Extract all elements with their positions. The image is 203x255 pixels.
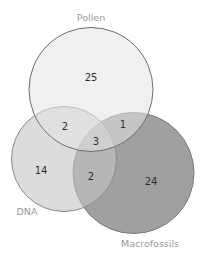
dna-set-label: DNA	[17, 206, 38, 217]
dna-only-count: 14	[35, 165, 48, 176]
macrofossils-set-label: Macrofossils	[121, 238, 179, 249]
pollen-set-label: Pollen	[77, 12, 105, 23]
pollen-dna-count: 2	[62, 121, 68, 132]
macrofossils-only-count: 24	[145, 176, 158, 187]
pollen-only-count: 25	[85, 72, 98, 83]
all-three-count: 3	[93, 136, 99, 147]
dna-macrofossils-count: 2	[88, 171, 94, 182]
venn-diagram: Pollen DNA Macrofossils 25 2 1 3 14 2 24	[0, 0, 203, 255]
pollen-macrofossils-count: 1	[120, 119, 126, 130]
pollen-circle	[29, 28, 153, 152]
